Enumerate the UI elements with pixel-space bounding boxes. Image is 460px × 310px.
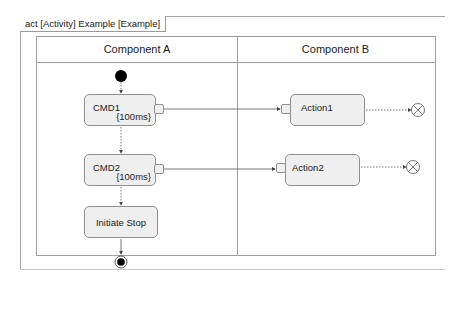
- flow-final-node-2[interactable]: [407, 161, 420, 174]
- flow-final-node-1[interactable]: [412, 104, 425, 117]
- diagram-edges: [0, 0, 460, 310]
- activity-final-node-inner: [117, 258, 125, 266]
- initial-node[interactable]: [115, 70, 127, 82]
